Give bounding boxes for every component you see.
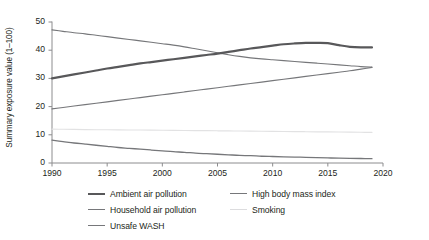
x-tick-label: 2000 bbox=[145, 168, 179, 178]
y-tick-label: 40 bbox=[25, 44, 45, 54]
y-tick-label: 0 bbox=[25, 157, 45, 167]
legend-swatch-icon bbox=[88, 209, 105, 210]
legend-item-label: High body mass index bbox=[252, 189, 336, 199]
y-tick-label: 50 bbox=[25, 16, 45, 26]
y-tick-label: 30 bbox=[25, 72, 45, 82]
line-chart-canvas bbox=[0, 0, 429, 175]
x-tick-label: 1995 bbox=[90, 168, 124, 178]
plot-area: 50403020100 1990199520002005201020152020 bbox=[0, 0, 429, 175]
legend-swatch-icon bbox=[88, 193, 105, 195]
series-line-smoking bbox=[52, 129, 372, 132]
legend-swatch-icon bbox=[230, 209, 247, 210]
legend-item-label: Unsafe WASH bbox=[110, 221, 165, 231]
series-line-unsafe-wash bbox=[52, 140, 372, 158]
legend-swatch-icon bbox=[88, 225, 105, 226]
legend-item[interactable]: Household air pollution bbox=[88, 202, 196, 217]
series-line-ambient-air-pollution bbox=[52, 43, 372, 79]
x-tick-label: 2005 bbox=[201, 168, 235, 178]
legend-swatch-icon bbox=[230, 193, 247, 194]
y-tick-label: 20 bbox=[25, 101, 45, 111]
legend-item[interactable]: Unsafe WASH bbox=[88, 218, 165, 233]
series-line-high-body-mass-index bbox=[52, 67, 372, 108]
x-tick-label: 2020 bbox=[366, 168, 400, 178]
chart-legend: Ambient air pollutionHigh body mass inde… bbox=[88, 186, 428, 238]
x-tick-label: 2010 bbox=[256, 168, 290, 178]
legend-item-label: Household air pollution bbox=[110, 205, 196, 215]
y-tick-label: 10 bbox=[25, 129, 45, 139]
legend-item-label: Ambient air pollution bbox=[110, 189, 187, 199]
legend-item[interactable]: Ambient air pollution bbox=[88, 186, 187, 201]
legend-item-label: Smoking bbox=[252, 205, 285, 215]
legend-item[interactable]: High body mass index bbox=[230, 186, 336, 201]
x-tick-label: 1990 bbox=[35, 168, 69, 178]
chart-figure: Summary exposure value (1–100) 504030201… bbox=[0, 0, 429, 240]
legend-item[interactable]: Smoking bbox=[230, 202, 285, 217]
x-tick-label: 2015 bbox=[311, 168, 345, 178]
series-line-household-air-pollution bbox=[52, 30, 372, 67]
